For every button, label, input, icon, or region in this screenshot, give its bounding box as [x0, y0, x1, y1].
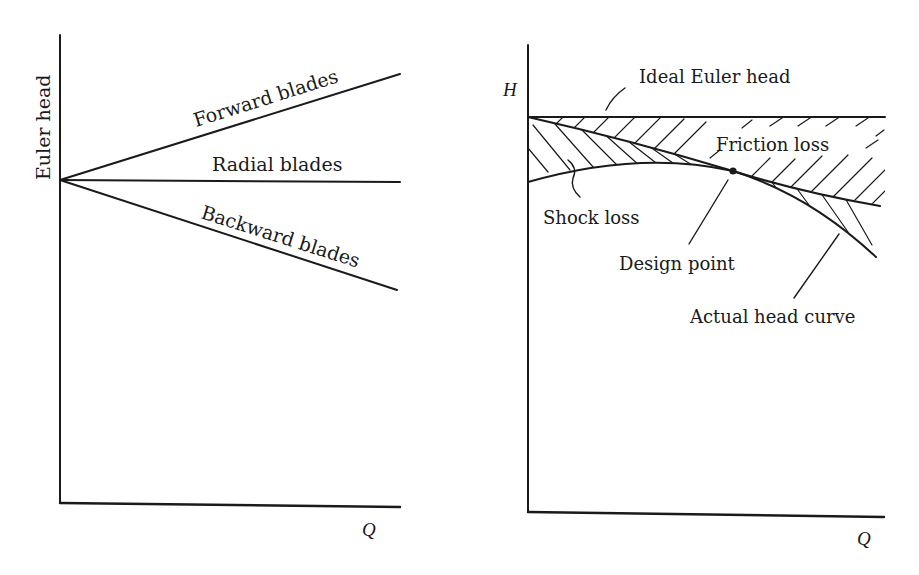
figure-canvas: Euler head Forward blades Radial blades … [0, 0, 919, 575]
friction-loss-label: Friction loss [716, 134, 829, 155]
left-x-axis-label: Q [362, 519, 376, 540]
radial-blades-line [60, 180, 400, 182]
backward-blades-line [60, 180, 397, 290]
design-leader-line [689, 180, 728, 244]
ideal-leader-line [606, 88, 625, 110]
right-chart: H Q [502, 45, 885, 549]
right-x-axis-label: Q [857, 528, 871, 549]
right-y-axis-label: H [502, 79, 518, 100]
forward-blades-label: Forward blades [191, 65, 341, 131]
design-point-marker [729, 167, 736, 174]
right-x-axis [528, 512, 884, 517]
ideal-euler-head-label: Ideal Euler head [639, 66, 790, 87]
shock-leader-line [568, 160, 580, 197]
actual-leader-line [794, 234, 839, 298]
left-chart: Euler head Forward blades Radial blades … [32, 35, 400, 540]
left-y-axis-label: Euler head [32, 74, 54, 180]
design-point-label: Design point [619, 253, 736, 274]
radial-blades-label: Radial blades [212, 153, 342, 175]
friction-loss-hatch [540, 107, 885, 206]
actual-head-curve-label: Actual head curve [689, 306, 855, 327]
backward-blades-label: Backward blades [199, 201, 363, 272]
left-x-axis [60, 503, 400, 507]
friction-boundary-line [528, 117, 880, 206]
shock-loss-label: Shock loss [543, 207, 640, 228]
